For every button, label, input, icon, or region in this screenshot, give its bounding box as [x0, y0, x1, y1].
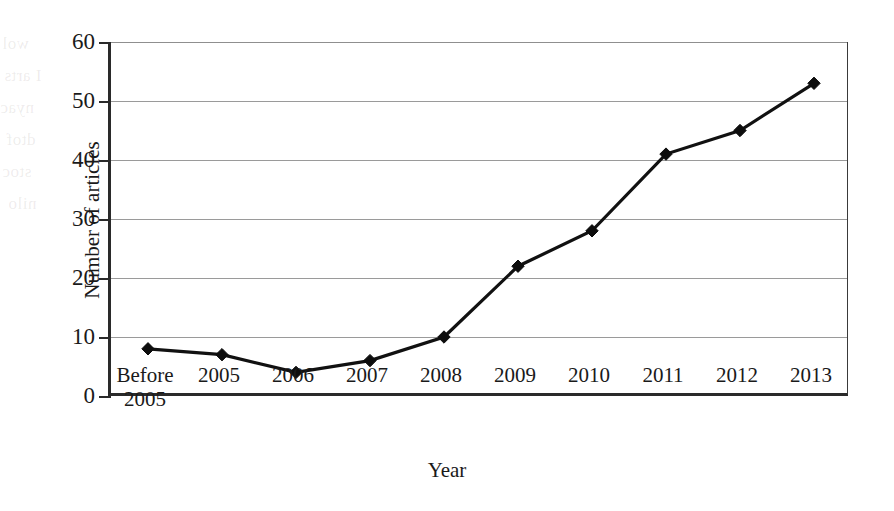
x-axis-tick-label: 2006 [272, 364, 314, 388]
y-axis-tick [99, 219, 111, 221]
y-axis-tick [99, 396, 111, 398]
x-axis-tick-label: 2005 [198, 364, 240, 388]
y-axis-tick [99, 337, 111, 339]
data-series-layer [111, 42, 851, 396]
data-point-marker [216, 349, 228, 361]
y-axis-tick-label: 60 [72, 29, 95, 55]
y-axis-tick-label: 0 [84, 383, 96, 409]
y-axis-tick [99, 42, 111, 44]
plot-area: 0102030405060 [108, 42, 848, 396]
ghost-text-line: I arts [4, 66, 41, 86]
x-axis-title: Year [0, 458, 894, 483]
y-axis-tick [99, 101, 111, 103]
y-axis-tick [99, 160, 111, 162]
x-axis-tick-label: Before 2005 [116, 364, 173, 411]
y-axis-tick [99, 278, 111, 280]
line-chart-figure: wol I arts nyac dtof stoc nilo Number of… [0, 0, 894, 511]
x-axis-tick-label: 2012 [716, 364, 758, 388]
x-axis-tick-label: 2011 [642, 364, 683, 388]
ghost-text-line: stoc [2, 162, 31, 182]
ghost-text-line: nyac [0, 98, 34, 118]
data-point-marker [142, 343, 154, 355]
x-axis-tick-label: 2013 [790, 364, 832, 388]
y-axis-tick-label: 20 [72, 265, 95, 291]
x-axis-tick-label: 2009 [494, 364, 536, 388]
ghost-text-line: nilo [8, 194, 36, 214]
x-axis-tick-label: 2007 [346, 364, 388, 388]
y-axis-tick-label: 10 [72, 324, 95, 350]
data-line [148, 83, 814, 372]
ghost-text-line: wol [2, 34, 29, 54]
x-axis-tick-label: 2010 [568, 364, 610, 388]
y-axis-tick-label: 50 [72, 88, 95, 114]
data-markers [142, 77, 820, 379]
x-axis-tick-label: 2008 [420, 364, 462, 388]
y-axis-tick-label: 40 [72, 147, 95, 173]
y-axis-tick-label: 30 [72, 206, 95, 232]
ghost-text-line: dtof [6, 130, 35, 150]
